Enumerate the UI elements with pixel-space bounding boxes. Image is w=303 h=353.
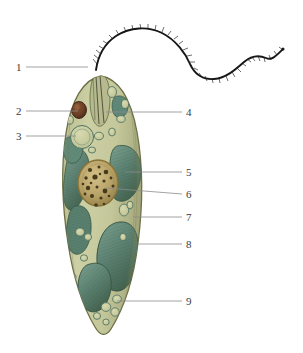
callout-label-2: 2 <box>16 106 22 117</box>
callout-label-9: 9 <box>186 296 192 307</box>
callout-label-4: 4 <box>186 107 192 118</box>
nucleus <box>78 160 118 207</box>
cell-diagram-figure: 1 2 3 4 5 6 7 8 9 <box>0 0 303 353</box>
callout-label-5: 5 <box>186 167 192 178</box>
reservoir-gullet <box>90 73 110 126</box>
cell-illustration <box>0 0 303 353</box>
flagellum-icon <box>93 24 285 83</box>
callout-label-7: 7 <box>186 212 192 223</box>
callout-label-6: 6 <box>186 189 192 200</box>
callout-label-1: 1 <box>16 62 22 73</box>
callout-label-3: 3 <box>16 131 22 142</box>
callout-label-8: 8 <box>186 239 192 250</box>
contractile-vacuole <box>71 126 94 149</box>
eyespot-stigma <box>72 102 87 119</box>
